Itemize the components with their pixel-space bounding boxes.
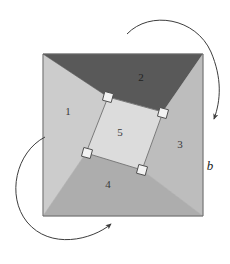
region-label-5: 5	[117, 126, 123, 138]
right-angle-bottom-marker	[136, 164, 147, 175]
region-label-3: 3	[177, 138, 183, 150]
region-label-2: 2	[138, 71, 144, 83]
right-angle-right-marker	[157, 107, 168, 118]
figure-root: 1 2 3 4 5 b	[0, 0, 230, 264]
region-label-1: 1	[65, 105, 71, 117]
dimension-label-b: b	[207, 158, 214, 173]
square-dissection-diagram: 1 2 3 4 5 b	[0, 0, 230, 264]
right-angle-left-marker	[81, 147, 92, 158]
right-angle-top-marker	[102, 91, 113, 102]
region-label-4: 4	[105, 178, 111, 190]
